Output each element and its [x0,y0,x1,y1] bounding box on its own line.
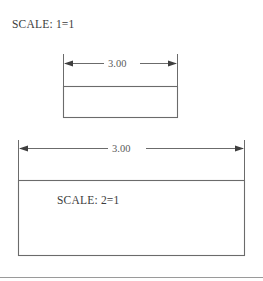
arrowhead-top-left-icon [64,61,73,67]
arrowhead-bottom-right-icon [235,146,244,152]
dimension-value-top: 3.00 [108,58,126,69]
arrowhead-top-right-icon [168,61,177,67]
scale-label-inner: SCALE: 2=1 [57,194,119,206]
technical-drawing-canvas [0,0,263,281]
dimension-value-bottom: 3.00 [112,143,130,154]
scale-label-top: SCALE: 1=1 [12,18,74,30]
large-rectangle [19,181,245,256]
arrowhead-bottom-left-icon [19,146,28,152]
small-rectangle [64,87,178,118]
